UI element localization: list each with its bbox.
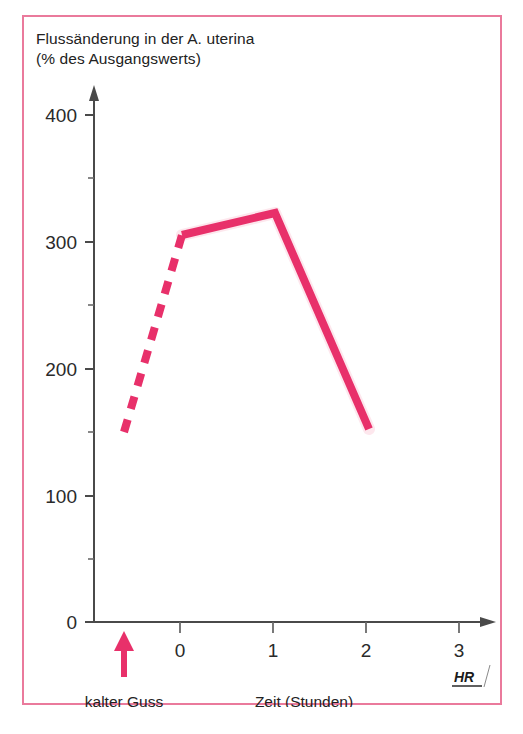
y-axis-ticks	[85, 115, 94, 622]
x-axis-ticks	[180, 622, 459, 633]
series-line-dashed	[124, 235, 182, 432]
y-tick-label-300: 300	[45, 232, 77, 253]
x-tick-label-0: 0	[175, 640, 186, 661]
x-axis-arrow-icon	[480, 617, 496, 627]
credit-mark: HR	[448, 663, 494, 693]
y-axis	[89, 85, 99, 622]
y-tick-label-200: 200	[45, 359, 77, 380]
x-tick-label-3: 3	[454, 640, 465, 661]
event-label: kalter Guss	[85, 693, 164, 707]
figure-frame: Flussänderung in der A. uterina (% des A…	[22, 15, 502, 705]
y-axis-arrow-icon	[89, 85, 99, 101]
line-chart: 400 300 200 100 0 0 1 2 3	[24, 17, 504, 707]
credit-label: HR	[454, 669, 475, 685]
x-axis-tick-labels: 0 1 2 3	[175, 640, 465, 661]
y-tick-label-100: 100	[45, 486, 77, 507]
x-axis-caption: Zeit (Stunden)	[255, 693, 353, 707]
series-line-solid	[182, 213, 369, 429]
kalter-guss-arrow-icon	[114, 631, 134, 677]
x-tick-label-1: 1	[268, 640, 279, 661]
x-axis	[94, 617, 496, 627]
y-tick-label-0: 0	[66, 612, 77, 633]
x-tick-label-2: 2	[361, 640, 372, 661]
y-axis-tick-labels: 400 300 200 100 0	[45, 105, 77, 633]
series-halo	[182, 213, 369, 429]
y-tick-label-400: 400	[45, 105, 77, 126]
